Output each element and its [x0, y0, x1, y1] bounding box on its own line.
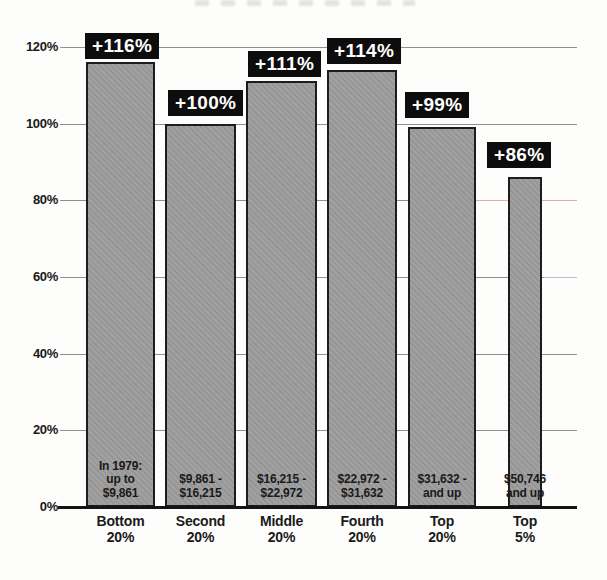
- value-badge: +114%: [327, 38, 401, 64]
- bar-fourth-20-: [327, 70, 397, 507]
- category-label: Top 5%: [475, 514, 575, 545]
- value-badge: +99%: [405, 92, 469, 118]
- income-range-label: $50,746 and up: [465, 473, 585, 500]
- value-badge: +86%: [487, 142, 551, 168]
- bar-top-20-: [408, 127, 476, 507]
- bar-bottom-20-: [86, 62, 155, 507]
- bar-middle-20-: [246, 81, 317, 507]
- gridline-artifact-blue: [544, 277, 577, 278]
- y-axis-tick-label: 100%: [26, 116, 58, 131]
- value-badge: +100%: [168, 90, 243, 116]
- y-axis-tick-label: 80%: [33, 192, 58, 207]
- cropped-title-remnant: [195, 0, 415, 6]
- bar-chart: 0%20%40%60%80%100%120%+116%In 1979: up t…: [0, 0, 607, 580]
- y-axis-tick-label: 40%: [33, 346, 58, 361]
- x-axis-baseline: [58, 506, 577, 509]
- bar-second-20-: [165, 124, 236, 507]
- value-badge: +111%: [248, 51, 321, 77]
- y-axis-tick-label: 60%: [33, 269, 58, 284]
- value-badge: +116%: [85, 33, 159, 59]
- bar-top-5-: [508, 177, 542, 507]
- y-axis-tick-label: 120%: [26, 39, 58, 54]
- y-axis-tick-label: 0%: [40, 499, 58, 514]
- y-axis-tick-label: 20%: [33, 422, 58, 437]
